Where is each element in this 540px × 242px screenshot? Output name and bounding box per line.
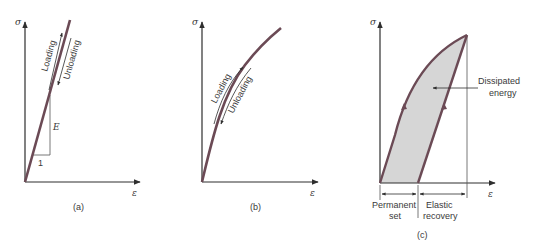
unloading-label: Unloading: [61, 39, 82, 81]
area-label-line2: energy: [489, 88, 517, 98]
elastic-recovery-label-line1: Elastic: [426, 200, 453, 210]
x-axis-label: ε: [488, 189, 493, 199]
panel-caption: (a): [73, 202, 84, 212]
stress-strain-figure: σ ε E 1 Loading Unloading (a) σ ε Loadin…: [0, 0, 540, 242]
dissipated-energy-area: [380, 35, 467, 183]
panel-caption: (b): [250, 202, 261, 212]
panel-a: σ ε E 1 Loading Unloading (a): [15, 17, 140, 212]
nonlinear-elastic-curve: [202, 28, 281, 182]
loading-label: Loading: [39, 39, 57, 73]
panel-caption: (c): [417, 230, 428, 240]
area-label-line1: Dissipated: [478, 76, 520, 86]
loading-label: Loading: [209, 72, 233, 105]
panel-b: σ ε Loading Unloading (b): [192, 17, 318, 212]
permanent-set-label-line1: Permanent: [372, 200, 417, 210]
y-axis-label: σ: [192, 17, 199, 27]
x-axis-label: ε: [132, 188, 137, 198]
permanent-set-label-line2: set: [389, 211, 402, 221]
run-label: 1: [38, 158, 43, 168]
panel-c: σ ε Dissipated energy Permanent set Elas…: [370, 17, 520, 240]
x-axis-label: ε: [310, 188, 315, 198]
slope-label: E: [52, 122, 60, 132]
elastic-recovery-label-line2: recovery: [423, 211, 458, 221]
y-axis-label: σ: [370, 17, 377, 27]
y-axis-label: σ: [15, 17, 22, 27]
